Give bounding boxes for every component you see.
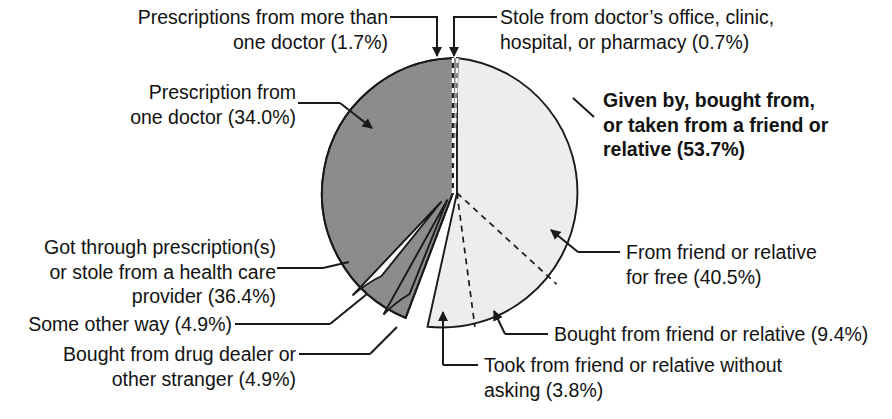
label-given-bought-taken: Given by, bought from, or taken from a f… <box>603 88 888 162</box>
label-prescriptions-more-than-one-doctor: Prescriptions from more than one doctor … <box>40 5 388 54</box>
label-got-through-prescriptions: Got through prescription(s) or stole fro… <box>0 235 276 309</box>
label-some-other-way: Some other way (4.9%) <box>0 312 232 337</box>
label-from-friend-for-free: From friend or relative for free (40.5%) <box>626 240 888 289</box>
leader-prescriptions-more-than-one-doctor <box>390 17 437 56</box>
leader-bought-from-dealer <box>299 327 397 354</box>
label-prescription-one-doctor: Prescription from one doctor (34.0%) <box>40 80 296 129</box>
leader-given-bought-taken <box>573 98 594 117</box>
pie-chart-figure: Prescriptions from more than one doctor … <box>0 0 892 419</box>
leader-stole-from-office <box>454 17 497 56</box>
label-took-without-asking: Took from friend or relative without ask… <box>484 353 888 402</box>
label-bought-from-dealer: Bought from drug dealer or other strange… <box>0 342 296 391</box>
slice-prescription-one-doctor-34-0[interactable] <box>322 58 453 318</box>
leader-got-through-prescriptions <box>277 262 349 268</box>
label-bought-from-friend: Bought from friend or relative (9.4%) <box>554 322 892 347</box>
label-stole-from-office: Stole from doctor’s office, clinic, hosp… <box>500 5 888 54</box>
